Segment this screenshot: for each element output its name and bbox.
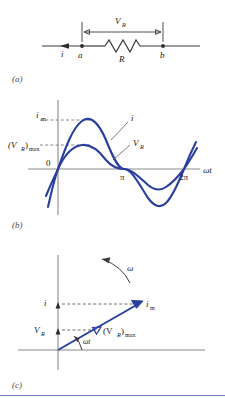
graph-origin-label: 0 bbox=[46, 158, 51, 168]
panel-label-b: (b) bbox=[12, 220, 23, 230]
resistor-symbol bbox=[105, 40, 140, 52]
label-i-max: i bbox=[36, 110, 39, 120]
graph-x-axis-label: ωt bbox=[203, 165, 212, 175]
projection-label-voltage: V bbox=[34, 325, 41, 335]
panel-label-a: (a) bbox=[12, 74, 23, 84]
current-arrow-icon bbox=[60, 43, 69, 49]
bottom-rule bbox=[0, 395, 225, 396]
projection-marker-voltage bbox=[56, 328, 61, 335]
label-v-max-subscript: max bbox=[29, 145, 41, 152]
rotation-label: ω bbox=[127, 263, 133, 273]
projection-label-voltage-sub: R bbox=[40, 330, 45, 337]
phasor-tip-label-current-sub: m bbox=[150, 304, 155, 311]
phasor-tip-label-voltage-subscript: max bbox=[125, 331, 137, 338]
resistor-label: R bbox=[118, 54, 125, 64]
label-v-max-close: ) bbox=[25, 140, 28, 150]
figure-svg: V R i R a b (a) bbox=[0, 0, 225, 398]
circuit-current-label: i bbox=[61, 49, 64, 59]
projection-marker-current bbox=[56, 302, 61, 309]
label-i-max-sub: m bbox=[41, 115, 46, 122]
node-a-dot bbox=[80, 44, 84, 48]
curve-label-voltage: V bbox=[133, 138, 140, 148]
leader-current bbox=[111, 122, 128, 140]
label-v-max-open: (V bbox=[8, 140, 18, 150]
node-a-label: a bbox=[78, 50, 83, 60]
node-b-label: b bbox=[160, 50, 165, 60]
panel-a-circuit: V R i R a b (a) bbox=[12, 16, 200, 84]
circuit-voltage-sublabel: R bbox=[121, 21, 126, 28]
phasor-tip-label-current: i bbox=[146, 299, 149, 309]
panel-b-graph: i m (V R ) max 0 π 2π ωt i V R (b) bbox=[8, 100, 212, 230]
curve-current bbox=[48, 119, 196, 207]
rotation-arc bbox=[102, 259, 130, 283]
node-b-dot bbox=[161, 44, 165, 48]
phasor-tip-label-voltage-close: ) bbox=[121, 326, 124, 336]
phasor-current bbox=[58, 303, 140, 350]
figure-root: V R i R a b (a) bbox=[0, 0, 225, 398]
curve-label-voltage-sub: R bbox=[139, 143, 144, 150]
panel-c-phasor: ω i V R ωt i m (V R ) max bbox=[12, 255, 205, 390]
circuit-voltage-label: V bbox=[115, 16, 122, 26]
leader-voltage bbox=[113, 145, 130, 160]
graph-xtick-pi: π bbox=[120, 172, 125, 182]
graph-xtick-2pi: 2π bbox=[179, 172, 189, 182]
angle-label: ωt bbox=[83, 337, 91, 346]
panel-label-c: (c) bbox=[12, 380, 22, 390]
curve-label-current: i bbox=[131, 113, 134, 123]
projection-label-current: i bbox=[44, 298, 47, 308]
phasor-tip-label-voltage-open: (V bbox=[103, 326, 113, 336]
